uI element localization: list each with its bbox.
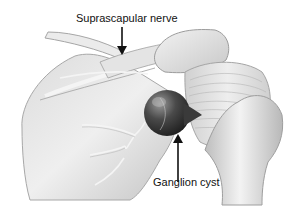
shoulder-diagram: Suprascapular nerve Ganglion cyst	[0, 0, 299, 215]
shoulder-illustration	[0, 0, 299, 215]
ganglion-cyst-label: Ganglion cyst	[153, 176, 220, 188]
cyst-arrow	[173, 134, 183, 182]
suprascapular-nerve-label: Suprascapular nerve	[76, 12, 178, 24]
